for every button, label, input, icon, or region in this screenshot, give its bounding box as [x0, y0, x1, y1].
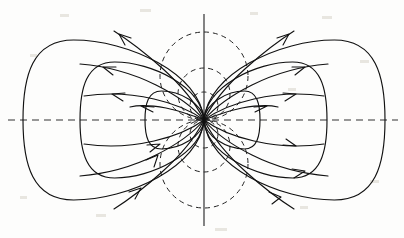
arrowhead-upper-left-4 — [141, 106, 154, 112]
arrowhead-lower-right-1 — [269, 192, 281, 204]
dipole-figure — [0, 0, 404, 238]
dipole-diagram-svg — [0, 0, 404, 238]
arrowhead-upper-right-4 — [254, 106, 267, 112]
arrowhead-lower-left-3 — [147, 144, 160, 152]
open-curves-lower-left — [80, 120, 204, 209]
arrowhead-lower-right-3 — [283, 139, 296, 146]
